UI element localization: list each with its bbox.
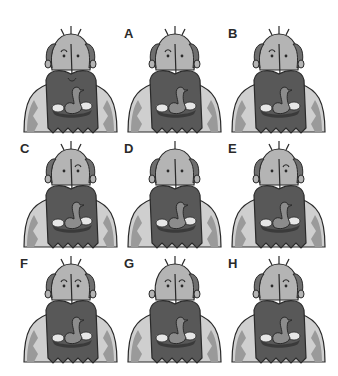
beard-shape — [46, 301, 98, 363]
head-hairs — [269, 256, 289, 265]
bearded-man-figure — [226, 135, 331, 253]
bearded-man-figure — [18, 20, 123, 138]
egg-left — [156, 219, 168, 227]
eye-right — [181, 55, 184, 58]
head-hairs — [61, 256, 81, 265]
ear-left — [45, 290, 51, 298]
head-hairs — [165, 26, 185, 35]
figure-C[interactable]: C — [18, 135, 123, 253]
head-hairs — [61, 141, 81, 150]
beard-shape — [150, 71, 202, 133]
beard-shape — [254, 186, 306, 248]
beard-shape — [254, 71, 306, 133]
eye-left — [63, 170, 66, 173]
ear-left — [149, 175, 155, 183]
ear-left — [149, 60, 155, 68]
ear-left — [253, 60, 259, 68]
eye-left — [167, 170, 170, 173]
ear-right — [90, 60, 96, 68]
eye-left — [271, 285, 274, 288]
egg-left — [52, 334, 64, 342]
ear-right — [298, 290, 304, 298]
ear-right — [90, 175, 96, 183]
beard-shape — [254, 301, 306, 363]
figure-F[interactable]: F — [18, 250, 123, 368]
figure-original[interactable] — [18, 20, 123, 138]
eye-left — [271, 170, 274, 173]
egg-left — [52, 104, 64, 112]
egg-left — [156, 104, 168, 112]
ear-left — [253, 175, 259, 183]
bearded-man-figure — [122, 135, 227, 253]
bearded-man-figure — [226, 250, 331, 368]
bearded-man-figure — [226, 20, 331, 138]
ear-left — [149, 290, 155, 298]
eye-right — [181, 170, 184, 173]
eye-right — [77, 55, 80, 58]
beard-shape — [46, 71, 98, 133]
bearded-man-figure — [122, 250, 227, 368]
egg-left — [260, 104, 272, 112]
figure-B[interactable]: B — [226, 20, 331, 138]
bearded-man-figure — [122, 20, 227, 138]
bearded-man-figure — [18, 250, 123, 368]
ear-right — [298, 175, 304, 183]
ear-left — [45, 175, 51, 183]
ear-right — [194, 290, 200, 298]
beard-shape — [150, 301, 202, 363]
egg-left — [260, 219, 272, 227]
ear-right — [194, 60, 200, 68]
ear-right — [90, 290, 96, 298]
figure-H[interactable]: H — [226, 250, 331, 368]
head-hairs — [61, 26, 81, 35]
egg-left — [156, 334, 168, 342]
figure-E[interactable]: E — [226, 135, 331, 253]
ear-right — [298, 60, 304, 68]
ear-right — [194, 175, 200, 183]
figure-A[interactable]: A — [122, 20, 227, 138]
figure-G[interactable]: G — [122, 250, 227, 368]
beard-shape — [46, 186, 98, 248]
eye-right — [285, 55, 288, 58]
beard-shape — [150, 186, 202, 248]
egg-left — [260, 334, 272, 342]
ear-left — [45, 60, 51, 68]
head-hairs — [269, 141, 289, 150]
head-hairs — [165, 256, 185, 265]
figure-D[interactable]: D — [122, 135, 227, 253]
head-hairs — [269, 26, 289, 35]
ear-left — [253, 290, 259, 298]
bearded-man-figure — [18, 135, 123, 253]
egg-left — [52, 219, 64, 227]
